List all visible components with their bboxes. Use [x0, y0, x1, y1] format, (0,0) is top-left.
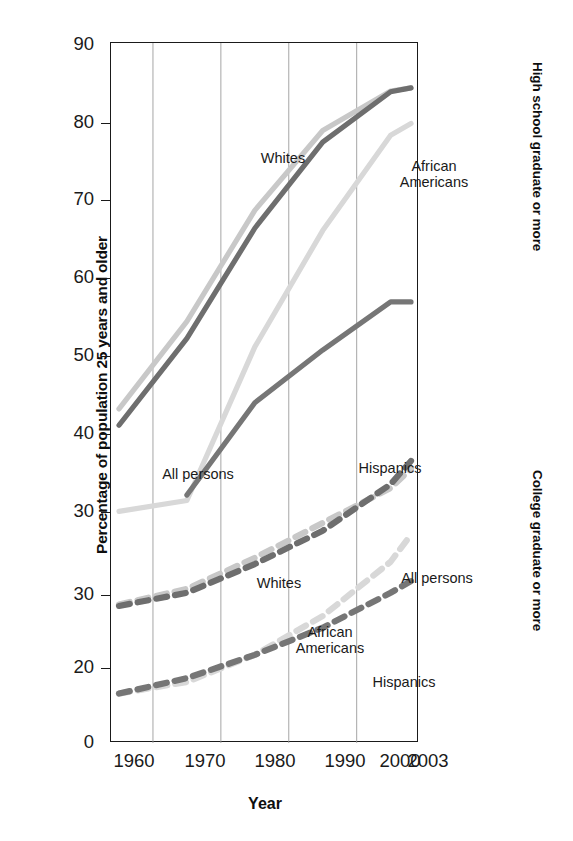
series-line-all-persons-hs	[119, 88, 411, 425]
section-label-high-school: High school graduate or more	[530, 62, 545, 251]
y-tick-label: 30	[34, 502, 94, 521]
annotation-whites-col: Whites	[219, 575, 339, 591]
x-tick-label: 2003	[388, 752, 468, 771]
annotation-whites-hs: Whites	[223, 150, 343, 166]
y-tick-label: 60	[34, 268, 94, 287]
y-tick-label: 40	[34, 424, 94, 443]
y-tick-label: 80	[34, 113, 94, 132]
x-tick-label: 1980	[235, 752, 315, 771]
annotation-aa-col: African Americans	[270, 624, 390, 656]
x-tick-label: 1960	[94, 752, 174, 771]
annotation-aa-hs: African Americans	[374, 158, 494, 190]
y-tick-label: 70	[34, 190, 94, 209]
series-line-whites-hs	[119, 88, 411, 409]
y-tick-label: 20	[34, 658, 94, 677]
y-axis-title: Percentage of population 25 years and ol…	[93, 115, 111, 675]
x-tick-label: 1970	[165, 752, 245, 771]
data-lines	[119, 88, 411, 694]
y-tick-label: 50	[34, 346, 94, 365]
x-axis-title: Year	[110, 795, 420, 813]
y-tick-label: 0	[34, 733, 94, 752]
annotation-all-hs: All persons	[138, 466, 258, 482]
section-label-college: College graduate or more	[530, 470, 545, 631]
y-tick-label: 30	[34, 585, 94, 604]
annotation-hisp-hs: Hispanics	[330, 460, 450, 476]
y-tick-label: 90	[34, 35, 94, 54]
chart-figure: Percentage of population 25 years and ol…	[0, 0, 573, 841]
annotation-hisp-col: Hispanics	[344, 674, 464, 690]
annotation-all-col: All persons	[377, 570, 497, 586]
